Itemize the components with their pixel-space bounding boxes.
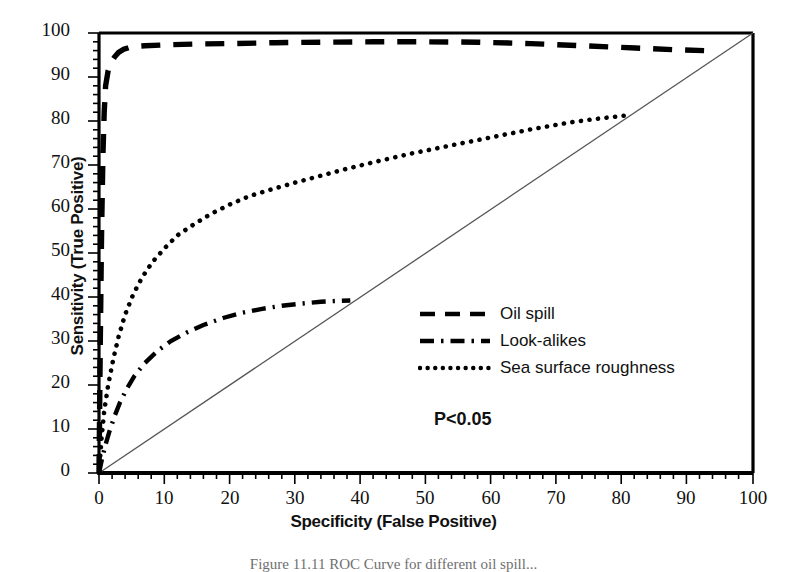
dotted-line-icon xyxy=(418,359,496,377)
y-tick-label-20: 20 xyxy=(20,371,70,393)
y-tick-label-10: 10 xyxy=(20,415,70,437)
dash-dot-line-icon xyxy=(418,332,496,350)
dashed-line-icon xyxy=(418,305,496,323)
y-tick-label-0: 0 xyxy=(20,459,70,481)
x-tick-label-30: 30 xyxy=(265,487,325,509)
x-tick-label-10: 10 xyxy=(134,487,194,509)
figure-caption: Figure 11.11 ROC Curve for different oil… xyxy=(0,556,787,572)
x-tick-label-40: 40 xyxy=(330,487,390,509)
chance-diagonal-line xyxy=(99,33,753,473)
x-tick-label-100: 100 xyxy=(723,487,783,509)
chart-legend: Oil spill Look-alikes Sea surface roughn… xyxy=(418,300,728,381)
x-tick-label-70: 70 xyxy=(526,487,586,509)
legend-label-look-alikes: Look-alikes xyxy=(496,331,586,351)
x-axis-title: Specificity (False Positive) xyxy=(0,512,787,532)
p-value-annotation: P<0.05 xyxy=(434,409,492,430)
y-axis-title: Sensitivity (True Positive) xyxy=(68,36,88,476)
legend-item-oil-spill: Oil spill xyxy=(418,300,728,327)
legend-label-oil-spill: Oil spill xyxy=(496,304,555,324)
legend-item-sea-surface-roughness: Sea surface roughness xyxy=(418,354,728,381)
legend-item-look-alikes: Look-alikes xyxy=(418,327,728,354)
roc-curve-figure: 100 90 80 70 60 50 40 30 20 10 0 0 10 20… xyxy=(0,0,787,572)
legend-label-sea-surface-roughness: Sea surface roughness xyxy=(496,358,675,378)
y-tick-label-30: 30 xyxy=(20,327,70,349)
x-tick-label-50: 50 xyxy=(395,487,455,509)
x-tick-label-20: 20 xyxy=(200,487,260,509)
series-oil-spill xyxy=(99,42,714,473)
x-tick-label-80: 80 xyxy=(591,487,651,509)
y-tick-label-60: 60 xyxy=(20,195,70,217)
x-tick-label-60: 60 xyxy=(461,487,521,509)
y-tick-label-40: 40 xyxy=(20,283,70,305)
y-tick-label-80: 80 xyxy=(20,107,70,129)
y-tick-label-90: 90 xyxy=(20,63,70,85)
x-tick-label-90: 90 xyxy=(656,487,716,509)
x-tick-label-0: 0 xyxy=(69,487,129,509)
y-tick-label-50: 50 xyxy=(20,239,70,261)
y-tick-label-70: 70 xyxy=(20,151,70,173)
y-tick-label-100: 100 xyxy=(20,19,70,41)
